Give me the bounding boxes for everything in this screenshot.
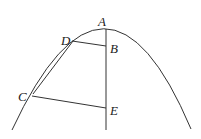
chord-cd: [33, 41, 73, 94]
label-d: D: [61, 34, 70, 47]
label-a: A: [98, 15, 106, 28]
parabola-curve: [12, 29, 191, 130]
segment-ce: [32, 96, 106, 108]
parabola-diagram: A D B C E: [0, 0, 201, 139]
label-c: C: [18, 90, 27, 103]
segment-db: [72, 41, 106, 46]
label-e: E: [110, 104, 118, 117]
label-b: B: [110, 42, 118, 55]
